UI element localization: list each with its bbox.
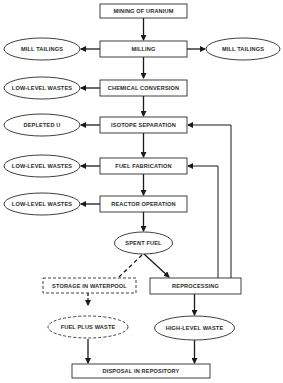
node-label: MILLING [131,46,155,52]
node-mill-tailings-right: MILL TAILINGS [206,38,280,60]
fuel-cycle-diagram: MINING OF URANIUM MILLING MILL TAILINGS … [0,0,283,383]
node-fuel-plus-waste: FUEL PLUS WASTE [48,316,128,338]
node-mining: MINING OF URANIUM [100,4,187,18]
node-depleted-u: DEPLETED U [4,114,80,136]
node-chemical-conversion: CHEMICAL CONVERSION [100,80,187,96]
arrow-reprocessing-to-isotope [188,125,231,278]
node-storage-waterpool: STORAGE IN WATERPOOL [43,278,136,293]
arrow-reprocessing-to-fabrication [188,166,218,278]
node-label: REPROCESSING [172,283,219,289]
node-label: DISPOSAL IN REPOSITORY [103,368,180,374]
node-label: FUEL PLUS WASTE [61,324,116,330]
node-label: SPENT FUEL [125,240,162,246]
arrow-spent-fuel-to-storage [119,255,142,277]
arrow-spent-fuel-to-reprocessing [144,254,169,277]
node-label: DEPLETED U [24,122,61,128]
node-low-level-wastes-3: LOW-LEVEL WASTES [4,193,80,215]
node-reprocessing: REPROCESSING [150,278,241,294]
node-disposal: DISPOSAL IN REPOSITORY [72,364,210,378]
node-label: STORAGE IN WATERPOOL [52,283,127,289]
node-spent-fuel: SPENT FUEL [115,232,173,254]
node-label: MILL TAILINGS [222,46,264,52]
node-high-level-waste: HIGH-LEVEL WASTE [155,316,235,340]
node-low-level-wastes-1: LOW-LEVEL WASTES [4,77,80,99]
node-label: LOW-LEVEL WASTES [12,163,72,169]
node-label: CHEMICAL CONVERSION [108,85,179,91]
node-label: FUEL FABRICATION [115,163,171,169]
node-reactor-operation: REACTOR OPERATION [100,196,187,212]
edges [81,18,231,363]
node-label: HIGH-LEVEL WASTE [166,325,224,331]
node-label: LOW-LEVEL WASTES [12,201,72,207]
node-low-level-wastes-2: LOW-LEVEL WASTES [4,155,80,177]
node-label: REACTOR OPERATION [111,201,176,207]
node-isotope-separation: ISOTOPE SEPARATION [100,117,187,133]
node-label: LOW-LEVEL WASTES [12,85,72,91]
node-mill-tailings-left: MILL TAILINGS [4,38,80,60]
node-label: MINING OF URANIUM [113,8,173,14]
node-label: MILL TAILINGS [21,46,63,52]
node-fuel-fabrication: FUEL FABRICATION [100,158,187,174]
node-milling: MILLING [100,41,187,57]
node-label: ISOTOPE SEPARATION [111,122,176,128]
